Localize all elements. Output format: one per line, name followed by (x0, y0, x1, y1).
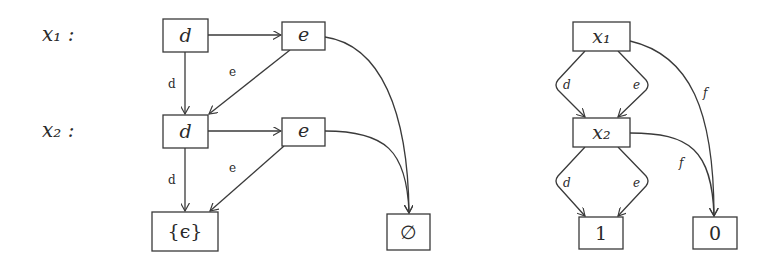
edge-label-x2-one-e: e (633, 176, 640, 190)
node-zero: 0 (693, 217, 737, 249)
row-label-x1: x₁ : (42, 22, 74, 46)
node-e2-label: e (298, 119, 309, 141)
node-x2-label: x₂ (592, 121, 610, 143)
row-label-x2: x₂ : (42, 118, 74, 142)
edge-x2-zero (630, 133, 714, 216)
edge-label-e1-d2: e (229, 65, 236, 79)
node-zero-label: 0 (709, 222, 721, 244)
edge-label-x2-one-d: d (563, 176, 571, 190)
edge-label-d2-eps: d (168, 173, 176, 187)
node-d1-label: d (179, 24, 191, 46)
node-one: 1 (579, 217, 623, 249)
edge-e2-empty (325, 131, 409, 213)
edge-label-x2-zero-f: f (678, 156, 686, 170)
node-x1-label: x₁ (592, 25, 610, 47)
edge-e1-empty (325, 37, 409, 213)
node-epsilon-label: {ϵ} (168, 220, 203, 242)
node-x2: x₂ (573, 118, 630, 147)
node-d1: d (163, 19, 208, 52)
left-diagram: x₁ : x₂ : d e d e d e d e (42, 19, 430, 251)
edge-label-x1-zero-f: f (702, 86, 710, 100)
node-d2: d (163, 115, 208, 148)
node-empty-set: ∅ (387, 214, 430, 250)
edge-label-x1-x2-e: e (633, 78, 640, 92)
edge-label-d1-d2: d (168, 77, 176, 91)
diagram-canvas: x₁ : x₂ : d e d e d e d e (0, 0, 776, 263)
node-x1: x₁ (573, 22, 630, 51)
node-epsilon-set: {ϵ} (152, 212, 218, 251)
node-one-label: 1 (595, 222, 607, 244)
right-diagram: d e f d e f x₁ x₂ 1 0 (556, 22, 737, 249)
edge-label-x1-x2-d: d (563, 78, 571, 92)
node-e2: e (282, 118, 325, 146)
node-e1: e (282, 22, 325, 50)
edge-label-e2-eps: e (229, 161, 236, 175)
node-e1-label: e (298, 23, 309, 45)
node-d2-label: d (179, 120, 191, 142)
edge-e2-eps (210, 146, 284, 211)
node-empty-label: ∅ (400, 221, 417, 243)
edge-e1-d2 (209, 50, 290, 114)
